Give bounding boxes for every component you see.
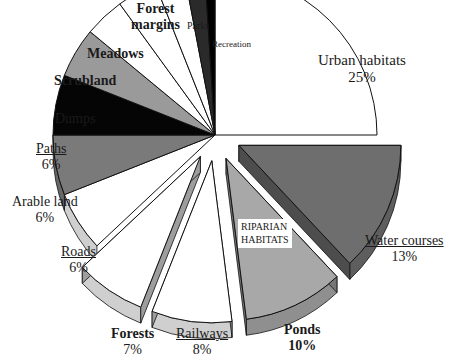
label-parks: Parks: [187, 20, 209, 32]
label-dumps: Dumps: [55, 111, 95, 127]
riparian-habitats-annotation: RIPARIAN HABITATS: [238, 219, 292, 248]
label-forests: Forests 7%: [111, 326, 154, 358]
label-water-courses: Water courses 13%: [365, 233, 444, 265]
label-urban-habitats: Urban habitats 25%: [318, 52, 406, 87]
label-paths: Paths 6%: [36, 141, 66, 173]
label-recreation: Recreation: [212, 39, 251, 49]
label-roads: Roads 6%: [61, 244, 96, 276]
label-forest-margins: Forest margins: [131, 1, 180, 33]
label-railways: Railways 8%: [176, 326, 228, 358]
label-scrubland: Scrubland: [54, 73, 116, 89]
label-meadows: Meadows: [87, 46, 144, 62]
label-ponds: Ponds 10%: [284, 322, 321, 354]
label-arable-land: Arable land 6%: [12, 194, 78, 226]
